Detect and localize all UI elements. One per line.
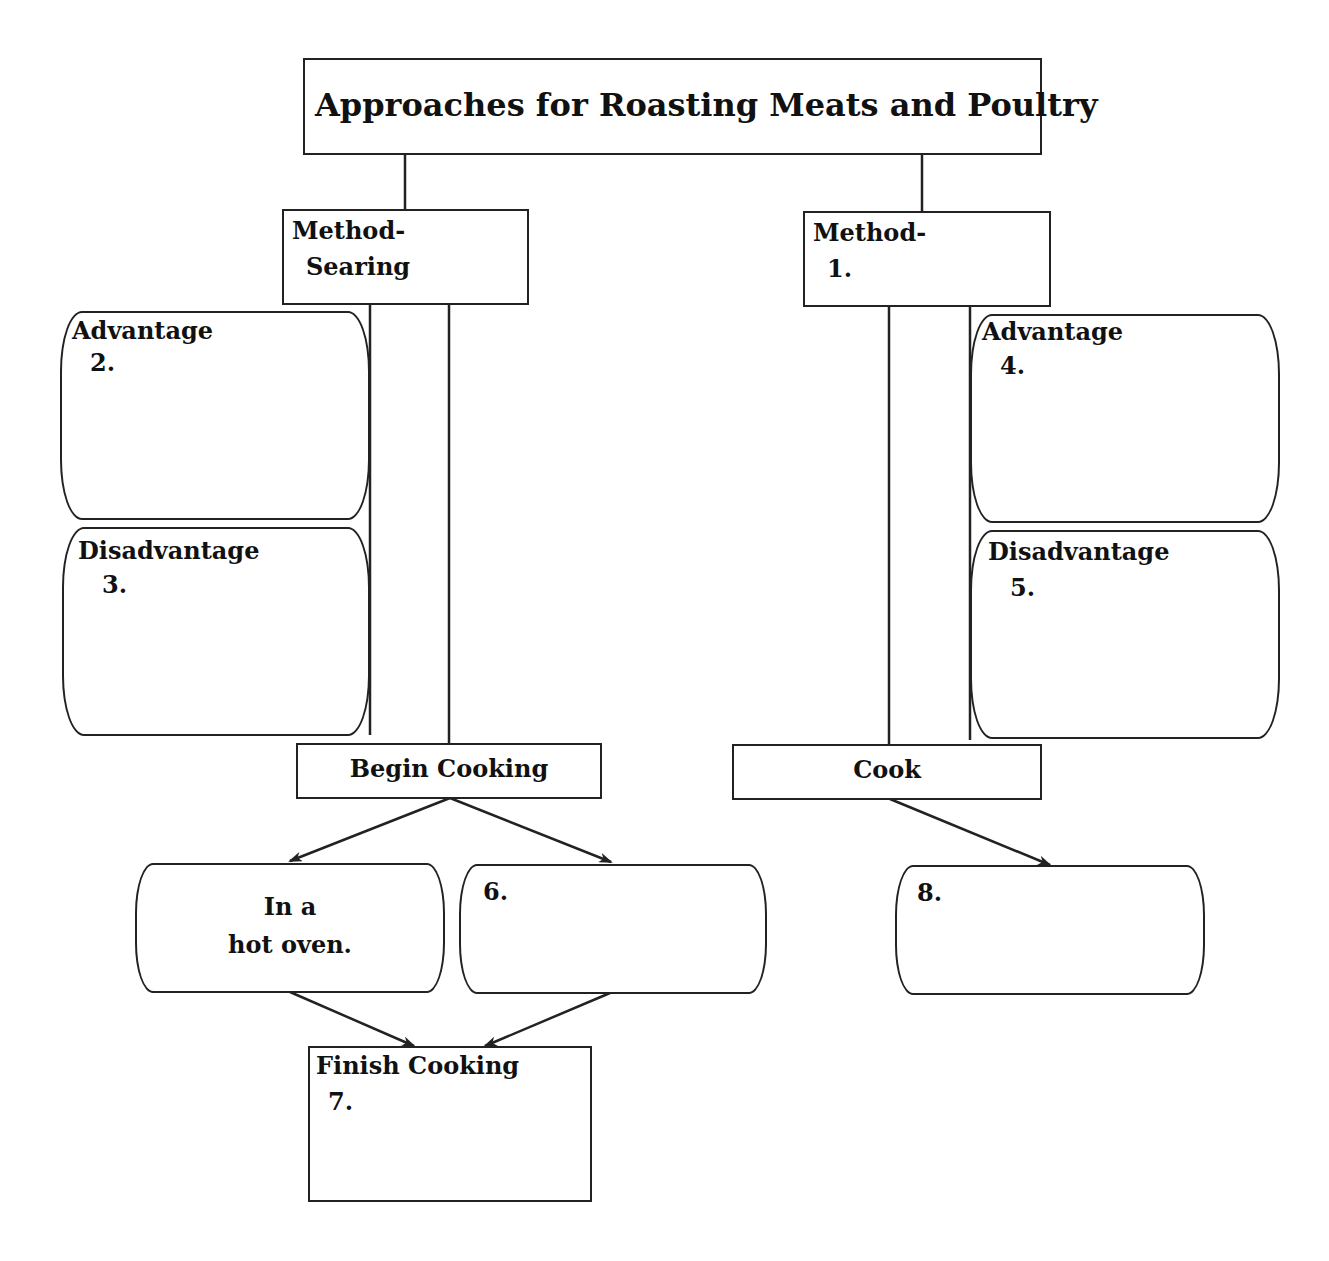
finish-cooking-number: 7.: [328, 1088, 353, 1117]
right-advantage-number: 4.: [1000, 352, 1025, 381]
option-8-number: 8.: [917, 879, 942, 908]
method-1-box: Method- 1.: [803, 211, 1051, 307]
method-1-answer: 1.: [827, 255, 852, 284]
diagram-title: Approaches for Roasting Meats and Poultr…: [315, 86, 1097, 124]
left-disadvantage-box: Disadvantage 3.: [62, 527, 370, 736]
begin-cooking-box: Begin Cooking: [296, 743, 602, 799]
option-6-box: 6.: [459, 864, 767, 994]
right-disadvantage-number: 5.: [1010, 574, 1035, 603]
left-advantage-number: 2.: [90, 349, 115, 378]
right-disadvantage-heading: Disadvantage: [988, 538, 1169, 567]
method-searing-label-2: Searing: [306, 253, 410, 282]
finish-cooking-box: Finish Cooking 7.: [308, 1046, 592, 1202]
left-advantage-heading: Advantage: [72, 317, 213, 346]
title-box: Approaches for Roasting Meats and Poultr…: [303, 58, 1042, 155]
method-1-label-1: Method-: [813, 219, 926, 248]
option-8-box: 8.: [895, 865, 1205, 995]
begin-cooking-label: Begin Cooking: [298, 755, 600, 784]
right-advantage-box: Advantage 4.: [970, 314, 1280, 523]
method-searing-box: Method- Searing: [282, 209, 529, 305]
finish-cooking-heading: Finish Cooking: [316, 1052, 519, 1081]
option-6-number: 6.: [483, 878, 508, 907]
method-searing-label-1: Method-: [292, 217, 405, 246]
hot-oven-line-2: hot oven.: [137, 931, 443, 960]
right-advantage-heading: Advantage: [982, 318, 1123, 347]
left-disadvantage-heading: Disadvantage: [78, 537, 259, 566]
left-disadvantage-number: 3.: [102, 571, 127, 600]
cook-label: Cook: [734, 756, 1040, 785]
hot-oven-box: In a hot oven.: [135, 863, 445, 993]
right-disadvantage-box: Disadvantage 5.: [970, 530, 1280, 739]
cook-box: Cook: [732, 744, 1042, 800]
hot-oven-line-1: In a: [137, 893, 443, 922]
left-advantage-box: Advantage 2.: [60, 311, 370, 520]
